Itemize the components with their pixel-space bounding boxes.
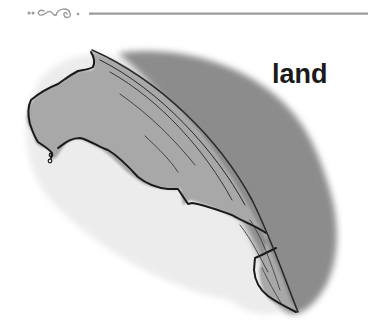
page-title: land xyxy=(272,59,328,90)
land-illustration xyxy=(0,0,368,332)
